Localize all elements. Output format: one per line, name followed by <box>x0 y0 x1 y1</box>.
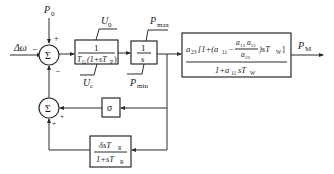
svg-text:21: 21 <box>251 43 257 48</box>
svg-text:R: R <box>118 145 122 151</box>
svg-text:G: G <box>82 59 86 65</box>
svg-text:P: P <box>43 4 50 15</box>
svg-text:]: ] <box>282 44 285 54</box>
svg-text:Σ: Σ <box>45 103 51 114</box>
svg-text:1+sT: 1+sT <box>96 154 115 164</box>
svg-text:[1+(a: [1+(a <box>198 44 218 54</box>
input-p0: P 0 + <box>43 4 59 44</box>
svg-text:s: s <box>141 54 145 64</box>
sigma-block: σ <box>102 98 120 117</box>
svg-text:R: R <box>120 159 124 165</box>
svg-text:23: 23 <box>191 49 197 55</box>
svg-text:(1+sT: (1+sT <box>87 55 107 64</box>
svg-text:11: 11 <box>222 49 228 55</box>
svg-text:a: a <box>186 44 190 54</box>
svg-text:max: max <box>157 21 170 29</box>
svg-text:+: + <box>60 113 64 121</box>
svg-text:δsT: δsT <box>99 140 112 150</box>
svg-text:1: 1 <box>141 43 146 53</box>
svg-text:+: + <box>52 120 56 128</box>
svg-text:Σ: Σ <box>45 50 51 61</box>
hydro-governor-block-diagram: Δω − P 0 + Σ − 1 T G (1+sT P ) U 0 U c <box>0 0 334 174</box>
svg-text:13: 13 <box>240 43 246 48</box>
integrator-block: 1 s P max P min <box>127 15 170 90</box>
svg-text:−: − <box>55 66 60 76</box>
svg-text:min: min <box>137 82 148 90</box>
svg-text:W: W <box>250 70 256 76</box>
svg-text:23: 23 <box>245 55 251 60</box>
svg-text:0: 0 <box>108 21 112 29</box>
output-pm: P M <box>291 40 324 57</box>
svg-text:P: P <box>149 15 156 26</box>
svg-text:)sT: )sT <box>258 44 271 54</box>
svg-text:+: + <box>54 34 59 43</box>
svg-text:1: 1 <box>94 43 99 53</box>
svg-text:M: M <box>305 45 312 53</box>
svg-text:−: − <box>229 44 234 54</box>
svg-text:P: P <box>110 59 113 65</box>
svg-text:P: P <box>297 40 304 51</box>
summing-junction-2: Σ + + <box>39 98 64 128</box>
svg-text:c: c <box>90 82 93 90</box>
summing-junction-1: Σ − <box>39 45 60 76</box>
turbine-block: a 23 [1+(a 11 − a 13 a 21 a 23 )sT W ] 1… <box>182 33 291 77</box>
svg-text:0: 0 <box>51 10 55 18</box>
svg-text:sT: sT <box>238 65 247 75</box>
svg-text:): ) <box>114 55 117 64</box>
svg-text:−: − <box>32 44 37 54</box>
transient-droop-block: δsT R 1+sT R <box>90 136 131 167</box>
svg-text:11: 11 <box>231 70 237 76</box>
input-delta-omega: Δω − <box>10 42 42 57</box>
svg-text:Δω: Δω <box>13 42 27 53</box>
svg-text:P: P <box>129 77 136 88</box>
svg-text:1+a: 1+a <box>215 65 229 75</box>
servo-block: 1 T G (1+sT P ) U 0 U c <box>75 15 118 90</box>
